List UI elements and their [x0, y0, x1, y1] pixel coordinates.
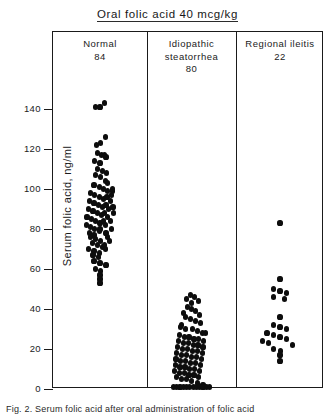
- data-point: [109, 226, 114, 231]
- data-point: [277, 358, 282, 363]
- data-point: [284, 336, 289, 341]
- data-point: [290, 342, 295, 347]
- data-point: [103, 134, 108, 139]
- y-tick-label-140: 140: [24, 103, 41, 114]
- data-point: [277, 334, 282, 339]
- data-point: [282, 296, 287, 301]
- y-tick-label-40: 40: [30, 303, 41, 314]
- panel-header-2: Idiopathic steatorrhea80: [147, 38, 236, 76]
- data-point: [277, 288, 282, 293]
- data-point: [91, 182, 96, 187]
- data-point: [200, 350, 205, 355]
- data-point: [183, 326, 188, 331]
- data-point: [198, 362, 203, 367]
- plot-area: Serum folic acid, ng/ml 0204060801001201…: [52, 31, 323, 388]
- data-point: [197, 312, 202, 317]
- data-point: [284, 326, 289, 331]
- data-point: [103, 262, 108, 267]
- y-tick-label-60: 60: [30, 263, 41, 274]
- data-point: [271, 294, 276, 299]
- panel-divider-2: [236, 32, 237, 387]
- data-point: [97, 160, 102, 165]
- panel-divider-1: [147, 32, 148, 387]
- data-point: [98, 140, 103, 145]
- y-tick-label-20: 20: [30, 343, 41, 354]
- y-tick-80: 80: [44, 229, 53, 230]
- data-point: [97, 260, 102, 265]
- panel-header-3: Regional ileitis22: [236, 38, 324, 63]
- data-point: [102, 100, 107, 105]
- y-tick-label-120: 120: [24, 143, 41, 154]
- data-point: [207, 384, 212, 389]
- y-tick-100: 100: [44, 189, 53, 190]
- data-point: [277, 220, 282, 225]
- data-point: [107, 238, 112, 243]
- y-tick-140: 140: [44, 109, 53, 110]
- y-tick-label-80: 80: [30, 223, 41, 234]
- data-point: [271, 322, 276, 327]
- data-point: [109, 192, 114, 197]
- data-point: [108, 198, 113, 203]
- panel-name-3: Regional ileitis: [236, 38, 324, 51]
- data-point: [198, 320, 203, 325]
- data-point: [108, 218, 113, 223]
- data-point: [264, 330, 269, 335]
- data-point: [103, 246, 108, 251]
- panel-name-2: Idiopathic steatorrhea: [147, 38, 236, 63]
- data-point: [189, 378, 194, 383]
- data-point: [111, 210, 116, 215]
- data-point: [260, 338, 265, 343]
- data-point: [97, 226, 102, 231]
- y-tick-label-0: 0: [35, 383, 41, 394]
- chart-title: Oral folic acid 40 mcg/kg: [0, 8, 335, 20]
- panel-name-1: Normal: [53, 38, 147, 51]
- data-point: [196, 374, 201, 379]
- data-point: [91, 258, 96, 263]
- data-point: [200, 344, 205, 349]
- figure-caption: Fig. 2. Serum folic acid after oral admi…: [6, 404, 329, 419]
- data-point: [199, 356, 204, 361]
- data-point: [90, 252, 95, 257]
- data-point: [103, 222, 108, 227]
- data-point: [102, 152, 107, 157]
- data-point: [105, 180, 110, 185]
- data-point: [110, 186, 115, 191]
- y-tick-60: 60: [44, 269, 53, 270]
- y-tick-20: 20: [44, 349, 53, 350]
- data-point: [266, 340, 271, 345]
- data-point: [97, 280, 102, 285]
- y-tick-label-100: 100: [24, 183, 41, 194]
- panel-count-3: 22: [236, 51, 324, 64]
- data-point: [284, 290, 289, 295]
- panel-count-2: 80: [147, 63, 236, 76]
- y-axis-label: Serum folic acid, ng/ml: [61, 116, 73, 296]
- data-point: [277, 324, 282, 329]
- data-point: [196, 298, 201, 303]
- data-point: [203, 330, 208, 335]
- data-point: [110, 204, 115, 209]
- data-point: [271, 332, 276, 337]
- panel-count-1: 84: [53, 51, 147, 64]
- figure: Oral folic acid 40 mcg/kg Serum folic ac…: [0, 0, 335, 419]
- data-point: [271, 346, 276, 351]
- data-point: [277, 276, 282, 281]
- chart-title-text: Oral folic acid 40 mcg/kg: [97, 8, 238, 22]
- y-tick-40: 40: [44, 309, 53, 310]
- panel-header-1: Normal84: [53, 38, 147, 63]
- data-point: [277, 352, 282, 357]
- data-point: [277, 314, 282, 319]
- data-point: [201, 338, 206, 343]
- data-point: [104, 170, 109, 175]
- y-tick-120: 120: [44, 149, 53, 150]
- data-point: [197, 368, 202, 373]
- data-point: [271, 286, 276, 291]
- y-tick-0: 0: [44, 389, 53, 390]
